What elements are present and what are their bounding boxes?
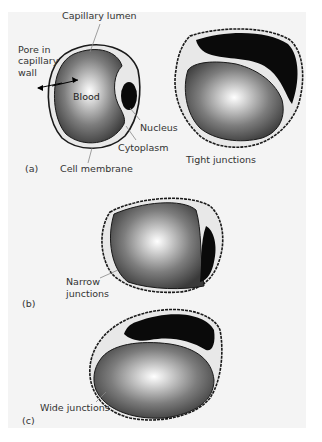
label-narrow: Narrow bbox=[66, 276, 100, 287]
label-pore-line3: wall bbox=[18, 67, 37, 78]
label-nucleus: Nucleus bbox=[140, 122, 178, 133]
label-wide-junctions: Wide junctions bbox=[40, 402, 110, 413]
label-pore-line1: Pore in bbox=[18, 44, 50, 55]
label-tight-junctions: Tight junctions bbox=[186, 154, 256, 165]
label-cell-membrane: Cell membrane bbox=[60, 163, 133, 174]
label-blood: Blood bbox=[73, 91, 100, 102]
label-cytoplasm: Cytoplasm bbox=[118, 142, 169, 153]
label-narrow-junctions: junctions bbox=[66, 288, 109, 299]
panel-label-c: (c) bbox=[22, 415, 35, 426]
capillary-diagram bbox=[0, 0, 322, 442]
nucleus-a bbox=[121, 82, 137, 110]
panel-label-a: (a) bbox=[25, 163, 38, 174]
label-capillary-lumen: Capillary lumen bbox=[62, 10, 137, 21]
capillary-b bbox=[100, 198, 223, 292]
capillary-a-tight bbox=[175, 29, 303, 147]
panel-label-b: (b) bbox=[22, 298, 35, 309]
label-pore-line2: capillary bbox=[18, 55, 58, 66]
figure-caption-cutoff bbox=[6, 434, 146, 442]
